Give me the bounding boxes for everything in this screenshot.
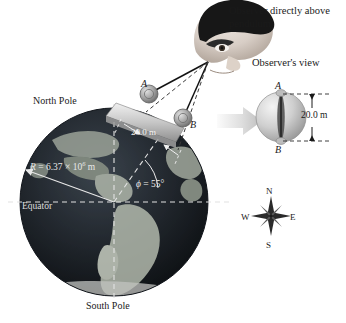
bob-b-label: B xyxy=(190,119,196,130)
transition-arrow-icon xyxy=(217,107,262,135)
compass-east-label: E xyxy=(290,212,296,222)
compass-south-label: S xyxy=(266,240,271,250)
observers-view-top-label: A xyxy=(275,80,281,91)
south-pole-label: South Pole xyxy=(86,300,130,311)
compass-west-label: W xyxy=(241,212,250,222)
arc-length-label: 20.0 m xyxy=(131,127,156,137)
radius-equals: = xyxy=(38,162,43,172)
radius-value: 6.37 xyxy=(46,162,63,172)
radius-times: × xyxy=(65,162,70,172)
bob-a-label: A xyxy=(141,78,147,89)
observers-view-caption: Observer's view xyxy=(252,57,320,68)
radius-symbol: R xyxy=(30,162,36,172)
observers-view-dimension-label: 20.0 m xyxy=(301,110,327,120)
north-pole-label: North Pole xyxy=(33,95,77,106)
latitude-symbol: ϕ xyxy=(136,179,141,189)
compass-north-label: N xyxy=(266,186,273,196)
equator-label: Equator xyxy=(22,201,52,211)
latitude-value: 55° xyxy=(151,179,164,189)
latitude-angle-label: ϕ = 55° xyxy=(136,179,164,189)
latitude-equals: = xyxy=(143,179,148,189)
radius-exponent: 6 xyxy=(82,160,85,167)
earth-radius-label: R = 6.37 × 106 m xyxy=(30,160,95,172)
radius-mantissa: 10 xyxy=(73,162,83,172)
observers-view-bottom-label: B xyxy=(275,144,281,155)
compass-rose-icon xyxy=(251,196,291,236)
observer-caption: Observer directly above pendulum xyxy=(229,4,341,30)
observers-view-sphere xyxy=(256,90,306,145)
radius-unit: m xyxy=(88,162,95,172)
figure-canvas: Observer directly above pendulum Observe… xyxy=(0,0,346,323)
